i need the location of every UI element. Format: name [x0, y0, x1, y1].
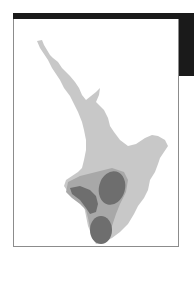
north-island-map	[0, 0, 194, 283]
dark-zone-south	[90, 216, 112, 244]
